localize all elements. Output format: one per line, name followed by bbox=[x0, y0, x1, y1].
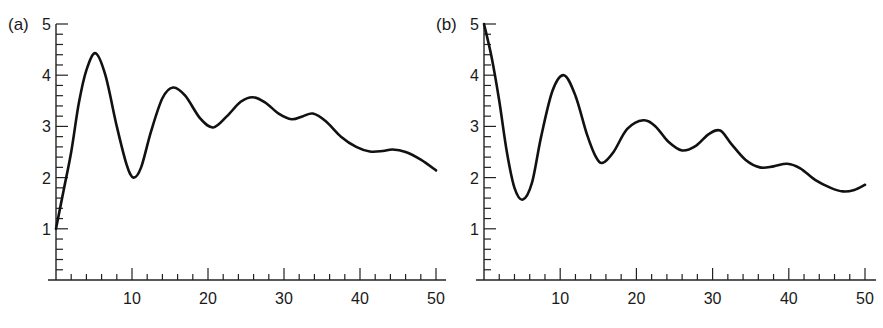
figure: (a) 12345 1020304050 (b) 12345 102030405… bbox=[0, 0, 883, 328]
panel-a-x-axis: 1020304050 bbox=[48, 268, 446, 307]
y-tick-label: 1 bbox=[470, 221, 479, 238]
y-tick-label: 5 bbox=[470, 16, 479, 33]
x-tick-label: 10 bbox=[123, 290, 141, 307]
x-tick-label: 50 bbox=[427, 290, 445, 307]
x-tick-label: 50 bbox=[856, 290, 874, 307]
x-tick-label: 20 bbox=[199, 290, 217, 307]
chart-canvas: (a) 12345 1020304050 (b) 12345 102030405… bbox=[0, 0, 883, 328]
y-tick-label: 1 bbox=[42, 221, 51, 238]
y-tick-label: 4 bbox=[470, 67, 479, 84]
x-tick-label: 10 bbox=[551, 290, 569, 307]
y-tick-label: 2 bbox=[470, 170, 479, 187]
panel-a: (a) 12345 1020304050 bbox=[8, 15, 446, 307]
x-tick-label: 20 bbox=[628, 290, 646, 307]
y-tick-label: 2 bbox=[42, 170, 51, 187]
panel-b-x-axis: 1020304050 bbox=[476, 268, 876, 307]
panel-a-data-line bbox=[56, 53, 436, 229]
panel-a-y-axis: 12345 bbox=[42, 16, 68, 280]
panel-a-label: (a) bbox=[8, 15, 29, 34]
y-tick-label: 3 bbox=[42, 118, 51, 135]
panel-b: (b) 12345 1020304050 bbox=[436, 15, 876, 307]
y-tick-label: 5 bbox=[42, 16, 51, 33]
panel-b-data-line bbox=[484, 24, 865, 200]
panel-b-label: (b) bbox=[436, 15, 457, 34]
x-tick-label: 30 bbox=[704, 290, 722, 307]
x-tick-label: 40 bbox=[351, 290, 369, 307]
y-tick-label: 4 bbox=[42, 67, 51, 84]
x-tick-label: 40 bbox=[780, 290, 798, 307]
y-tick-label: 3 bbox=[470, 118, 479, 135]
x-tick-label: 30 bbox=[275, 290, 293, 307]
